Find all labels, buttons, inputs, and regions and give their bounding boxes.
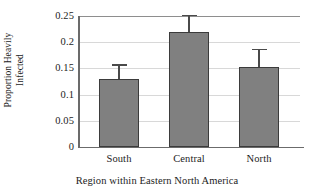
y-axis-line: [78, 16, 80, 147]
error-bar-line-south: [118, 66, 120, 79]
error-bar-cap-south: [112, 64, 127, 66]
error-bar-cap-central: [182, 15, 197, 17]
y-axis-title-line-2: Infected: [15, 0, 27, 140]
error-bar-cap-north: [252, 49, 267, 51]
y-axis-tick-labels: 0.25 0.2 0.15 0.1 0.05 0: [36, 0, 74, 195]
bar-north: [239, 67, 279, 147]
bar-central: [169, 32, 209, 147]
bar-chart-figure: Proportion Heavily Infected 0.25 0.2 0.1…: [0, 0, 314, 195]
x-tick-label-north: North: [226, 153, 292, 164]
plot-area: [78, 16, 300, 147]
y-tick-label-0.15: 0.15: [38, 63, 74, 74]
y-axis-title-line-1: Proportion Heavily: [3, 0, 15, 140]
y-tick-label-0.05: 0.05: [38, 116, 74, 127]
y-tick-label-0.1: 0.1: [38, 89, 74, 100]
bar-group-north: [226, 16, 292, 147]
error-bar-line-central: [188, 16, 190, 32]
error-bar-line-north: [258, 50, 260, 67]
x-axis-title: Region within Eastern North America: [0, 175, 314, 186]
bar-group-south: [86, 16, 152, 147]
bar-group-central: [156, 16, 222, 147]
x-tick-label-south: South: [86, 153, 152, 164]
x-tick-label-central: Central: [156, 153, 222, 164]
y-tick-label-0.2: 0.2: [38, 37, 74, 48]
y-tick-label-0.25: 0.25: [38, 11, 74, 22]
bar-south: [99, 79, 139, 147]
y-tick-label-0: 0: [38, 142, 74, 153]
